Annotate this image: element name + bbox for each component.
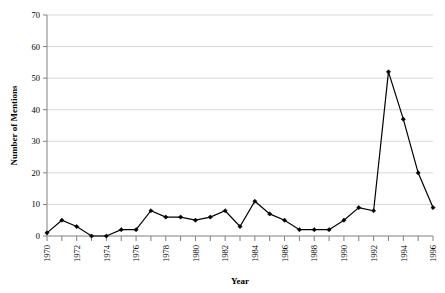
x-tick-label-1996: 1996 xyxy=(428,245,438,262)
x-tick-label-1992: 1992 xyxy=(369,245,379,262)
x-tick-label-1982: 1982 xyxy=(220,245,230,262)
x-tick-label-1986: 1986 xyxy=(280,245,290,262)
y-tick-label-30: 30 xyxy=(32,136,41,146)
data-point-1992 xyxy=(372,209,376,213)
y-tick-label-10: 10 xyxy=(32,199,41,209)
data-point-1995 xyxy=(416,171,420,175)
data-point-1981 xyxy=(208,215,212,219)
x-axis-title: Year xyxy=(231,276,249,286)
x-tick-label-1988: 1988 xyxy=(309,245,319,262)
data-point-1978 xyxy=(164,215,168,219)
x-tick-label-1974: 1974 xyxy=(102,244,112,262)
chart-container: 0102030405060701970197219741976197819801… xyxy=(0,0,445,293)
data-point-1996 xyxy=(431,205,435,209)
x-tick-label-1990: 1990 xyxy=(339,245,349,262)
x-tick-label-1980: 1980 xyxy=(191,245,201,262)
data-point-1980 xyxy=(193,218,197,222)
data-point-1975 xyxy=(119,228,123,232)
x-tick-label-1978: 1978 xyxy=(161,245,171,262)
y-axis-title: Number of Mentions xyxy=(9,85,19,165)
y-tick-label-0: 0 xyxy=(36,231,40,241)
data-point-1979 xyxy=(179,215,183,219)
x-tick-label-1972: 1972 xyxy=(72,245,82,262)
y-tick-label-40: 40 xyxy=(32,105,41,115)
x-tick-label-1994: 1994 xyxy=(399,244,409,262)
data-point-1994 xyxy=(401,117,405,121)
y-tick-label-50: 50 xyxy=(32,73,41,83)
x-axis-ticks: 1970197219741976197819801982198419861988… xyxy=(42,236,438,262)
data-point-1988 xyxy=(312,228,316,232)
data-point-1974 xyxy=(104,234,108,238)
y-tick-label-70: 70 xyxy=(32,10,41,20)
axes xyxy=(47,15,433,236)
data-point-markers xyxy=(45,70,435,238)
y-tick-label-20: 20 xyxy=(32,168,41,178)
line-chart: 0102030405060701970197219741976197819801… xyxy=(0,0,445,293)
x-tick-label-1976: 1976 xyxy=(131,245,141,262)
grid-lines xyxy=(47,15,433,204)
y-tick-label-60: 60 xyxy=(32,42,41,52)
y-axis-ticks: 010203040506070 xyxy=(32,10,48,241)
x-tick-label-1970: 1970 xyxy=(42,245,52,262)
x-tick-label-1984: 1984 xyxy=(250,244,260,262)
data-point-1993 xyxy=(386,70,390,74)
